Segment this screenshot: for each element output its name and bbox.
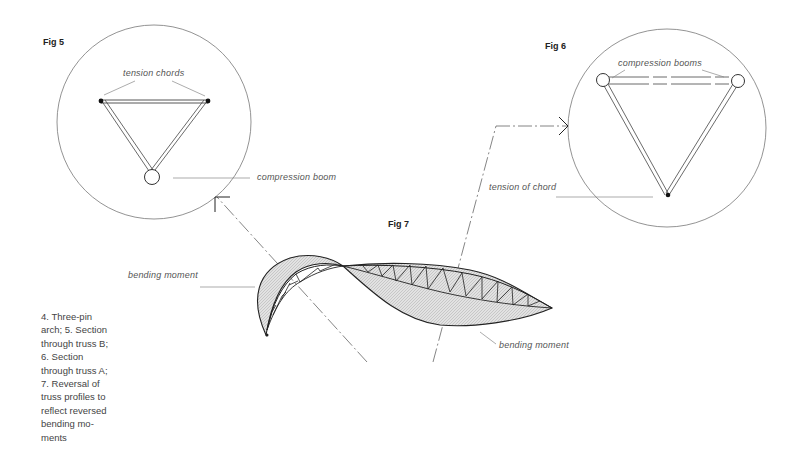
caption-line: truss profiles to [41, 390, 131, 403]
fig5-section-circle [57, 25, 251, 219]
caption-line: reflect reversed [41, 404, 131, 417]
fig7-truss-profile [200, 256, 552, 344]
tension-chord-node-right [206, 99, 211, 104]
caption-line: through truss B; [41, 337, 131, 350]
caption-line: ments [41, 431, 131, 444]
fig6-label: Fig 6 [545, 41, 566, 51]
compression-booms-annotation: compression booms [618, 58, 702, 68]
tension-chord-node-left [99, 99, 104, 104]
compression-boom-annotation: compression boom [257, 172, 336, 182]
bending-moment-area-right [343, 263, 552, 325]
arrow-to-fig5-icon [215, 197, 230, 212]
compression-boom-node-right [732, 75, 745, 88]
compression-boom-node [145, 170, 160, 185]
figure-caption: 4. Three-pin arch; 5. Section through tr… [41, 310, 131, 444]
caption-line: bending mo- [41, 417, 131, 430]
fig5-section-diagram [57, 25, 251, 219]
caption-line: arch; 5. Section [41, 323, 131, 336]
tension-chords-annotation: tension chords [123, 68, 184, 78]
bending-moment-annotation-right: bending moment [499, 340, 569, 350]
caption-line: 6. Section [41, 350, 131, 363]
caption-line: through truss A; [41, 364, 131, 377]
caption-line: 4. Three-pin [41, 310, 131, 323]
bending-moment-annotation-left: bending moment [128, 270, 198, 280]
fig7-label: Fig 7 [388, 219, 409, 229]
compression-boom-node-left [597, 74, 610, 87]
fig5-label: Fig 5 [43, 37, 64, 47]
pin-support-node [266, 334, 269, 337]
tension-of-chord-annotation: tension of chord [489, 182, 556, 192]
caption-line: 7. Reversal of [41, 377, 131, 390]
bending-moment-area-left [258, 256, 343, 335]
tension-chord-node [666, 193, 671, 198]
